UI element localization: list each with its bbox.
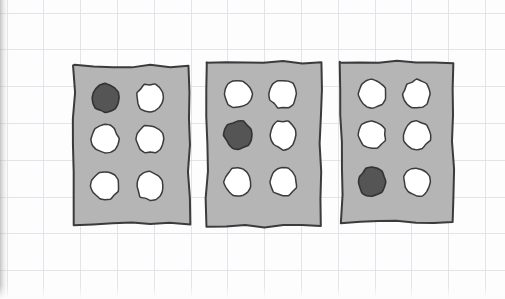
open-hole[interactable]	[404, 168, 431, 196]
card-body	[340, 61, 454, 223]
cards-layer	[0, 0, 505, 299]
marked-hole[interactable]	[92, 83, 119, 112]
open-hole[interactable]	[91, 124, 119, 153]
open-hole[interactable]	[358, 121, 385, 148]
open-hole[interactable]	[270, 168, 297, 196]
card[interactable]	[73, 65, 190, 225]
card[interactable]	[340, 61, 454, 223]
card-body	[73, 65, 190, 225]
card[interactable]	[206, 61, 322, 228]
open-hole[interactable]	[358, 79, 385, 108]
sketch-canvas	[0, 0, 505, 299]
open-hole[interactable]	[137, 84, 164, 112]
card-body	[206, 61, 322, 228]
open-hole[interactable]	[137, 171, 163, 200]
open-hole[interactable]	[136, 126, 164, 153]
